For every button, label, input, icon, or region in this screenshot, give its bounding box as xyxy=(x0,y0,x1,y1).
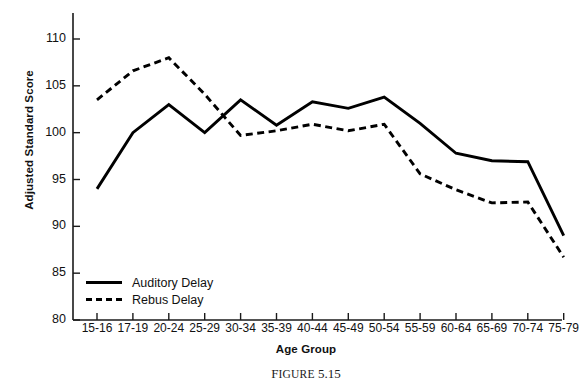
legend-swatch-solid-line-icon xyxy=(86,277,122,289)
legend-swatch-dashed-line-icon xyxy=(86,294,122,306)
figure-caption-number: 5.15 xyxy=(318,366,341,381)
series-line-auditory-delay xyxy=(97,97,564,236)
y-axis-title-text: Adjusted Standard Score xyxy=(23,70,35,210)
figure-caption-prefix: F xyxy=(271,366,278,381)
legend-item-rebus-delay: Rebus Delay xyxy=(86,291,266,308)
y-axis-tick-label: 110 xyxy=(38,32,66,45)
chart-legend: Auditory Delay Rebus Delay xyxy=(86,274,266,308)
y-axis-tick-label: 85 xyxy=(38,266,66,279)
x-axis-ticks xyxy=(97,313,564,320)
x-axis-title-text: Age Group xyxy=(240,343,336,355)
y-axis-tick-label: 95 xyxy=(38,173,66,186)
y-axis-ticks xyxy=(73,39,80,320)
figure-caption-word: IGURE xyxy=(279,368,315,380)
x-axis-tick-labels: 15-1617-1920-2425-2930-3435-3940-4445-49… xyxy=(0,322,576,340)
series-line-rebus-delay xyxy=(97,58,564,258)
legend-item-auditory-delay: Auditory Delay xyxy=(86,274,266,291)
y-axis-tick-label: 90 xyxy=(38,219,66,232)
figure-caption: FIGURE 5.15 xyxy=(0,366,576,382)
y-axis-tick-label: 105 xyxy=(38,79,66,92)
legend-label-rebus-delay: Rebus Delay xyxy=(122,293,204,307)
x-axis-title: Age Group xyxy=(0,343,576,355)
x-axis-tick-label: 75-79 xyxy=(534,322,583,334)
chart-series-lines xyxy=(97,58,564,258)
y-axis-tick-label: 100 xyxy=(38,126,66,139)
legend-label-auditory-delay: Auditory Delay xyxy=(122,276,213,290)
